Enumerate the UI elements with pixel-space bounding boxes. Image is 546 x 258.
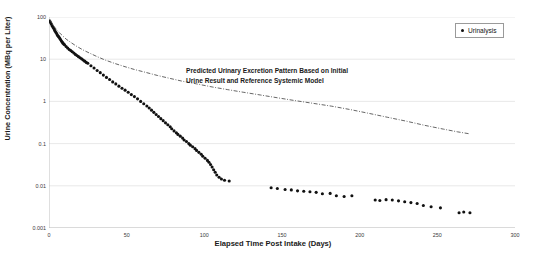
data-point	[162, 119, 165, 122]
data-point	[204, 157, 207, 160]
data-point	[416, 202, 419, 205]
x-tick-label: 100	[200, 232, 209, 238]
annotation-line-2: Urine Result and Reference Systemic Mode…	[186, 76, 348, 86]
data-point	[133, 95, 136, 98]
data-point	[343, 195, 346, 198]
chart-legend[interactable]: Urinalysis	[455, 23, 504, 38]
data-point	[120, 87, 123, 90]
data-point	[302, 190, 305, 193]
data-point	[458, 211, 461, 214]
data-point	[108, 78, 111, 81]
data-point	[228, 179, 231, 182]
data-point	[166, 123, 169, 126]
data-point	[214, 171, 217, 174]
y-axis-label: Urine Concentration (MBq per Liter)	[3, 0, 12, 179]
data-point	[124, 89, 127, 92]
x-axis-label: Elapsed Time Post Intake (Days)	[0, 239, 546, 248]
y-tick-label: 0.1	[39, 141, 47, 147]
data-point	[127, 91, 130, 94]
data-point	[430, 205, 433, 208]
data-point	[276, 187, 279, 190]
data-point	[136, 97, 139, 100]
data-point	[439, 206, 442, 209]
plot-area: 0501001502002503001001010.10.010.001	[49, 17, 515, 228]
data-point	[102, 74, 105, 77]
x-tick-label: 0	[48, 232, 51, 238]
data-point	[114, 82, 117, 85]
data-point	[130, 93, 133, 96]
data-point	[270, 186, 273, 189]
data-point	[403, 200, 406, 203]
data-point	[185, 140, 188, 143]
y-tick-label: 0.001	[33, 225, 47, 231]
data-point	[296, 189, 299, 192]
x-tick-label: 300	[511, 232, 520, 238]
data-point	[139, 100, 142, 103]
data-point	[308, 190, 311, 193]
data-point	[99, 71, 102, 74]
predicted-pattern-annotation: Predicted Urinary Excretion Pattern Base…	[186, 66, 348, 86]
data-point	[150, 109, 153, 112]
data-point	[397, 199, 400, 202]
data-point	[335, 194, 338, 197]
x-tick-label: 150	[278, 232, 287, 238]
data-point	[111, 80, 114, 83]
data-point	[93, 66, 96, 69]
data-point	[321, 192, 324, 195]
data-point	[462, 210, 465, 213]
data-point	[152, 111, 155, 114]
data-point	[315, 191, 318, 194]
data-point	[96, 69, 99, 72]
data-point	[385, 198, 388, 201]
x-tick-label: 200	[355, 232, 364, 238]
data-point	[468, 211, 471, 214]
data-point	[211, 165, 214, 168]
data-point	[89, 64, 92, 67]
y-tick-label: 1	[43, 98, 46, 104]
data-point	[148, 106, 151, 109]
data-point	[105, 76, 108, 79]
data-point	[422, 204, 425, 207]
data-point	[170, 127, 173, 130]
data-point	[378, 199, 381, 202]
data-point	[142, 102, 145, 105]
annotation-line-1: Predicted Urinary Excretion Pattern Base…	[186, 66, 348, 76]
y-tick-label: 0.01	[36, 183, 47, 189]
data-point	[215, 173, 218, 176]
data-point	[290, 188, 293, 191]
y-tick-label: 10	[40, 56, 46, 62]
legend-marker-icon	[461, 29, 464, 32]
data-point	[86, 62, 89, 65]
data-point	[329, 192, 332, 195]
data-point	[157, 115, 160, 118]
x-tick-label: 50	[124, 232, 130, 238]
y-tick-label: 100	[37, 14, 46, 20]
data-point	[409, 201, 412, 204]
legend-label-urinalysis: Urinalysis	[468, 27, 497, 34]
data-point	[220, 177, 223, 180]
data-point	[223, 179, 226, 182]
data-point	[117, 85, 120, 88]
series-points-urinalysis	[49, 20, 472, 215]
data-point	[391, 198, 394, 201]
data-point	[374, 198, 377, 201]
data-point	[284, 188, 287, 191]
x-tick-label: 250	[433, 232, 442, 238]
data-point	[350, 194, 353, 197]
plot-canvas	[49, 17, 515, 228]
chart-figure: 0501001502002503001001010.10.010.001 Uri…	[0, 0, 546, 258]
